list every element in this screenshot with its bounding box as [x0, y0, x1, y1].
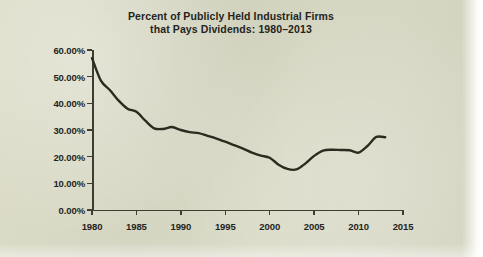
x-axis-tick [358, 210, 359, 215]
x-axis-tick [91, 210, 92, 215]
chart-title-line-2: that Pays Dividends: 1980–2013 [0, 23, 462, 36]
y-axis-tick-label: 60.00% [53, 45, 85, 56]
page-right-margin [462, 0, 483, 257]
y-axis-tick-label: 40.00% [53, 98, 85, 109]
x-axis-tick-label: 1980 [82, 221, 103, 232]
y-axis-tick-label: 20.00% [53, 151, 85, 162]
y-axis-tick-label: 10.00% [53, 178, 85, 189]
x-axis-tick [269, 210, 270, 215]
y-axis-tick [87, 156, 92, 157]
x-axis-tick [402, 210, 403, 215]
y-axis-tick-label: 50.00% [53, 71, 85, 82]
x-axis-tick-label: 1995 [215, 221, 236, 232]
x-axis-tick-label: 2005 [304, 221, 325, 232]
y-axis-tick [87, 183, 92, 184]
dividend-percent-line [92, 58, 385, 170]
chart-screenshot: Percent of Publicly Held Industrial Firm… [0, 0, 483, 257]
y-axis-tick [87, 76, 92, 77]
y-axis-tick-label: 0.00% [59, 205, 85, 216]
x-axis-tick [313, 210, 314, 215]
x-axis-tick [136, 210, 137, 215]
x-axis-tick-label: 2010 [348, 221, 369, 232]
x-axis-tick [180, 210, 181, 215]
y-axis-tick [87, 103, 92, 104]
line-series-svg [92, 50, 403, 210]
y-axis-tick-label: 30.00% [53, 125, 85, 136]
plot-area: 0.00%10.00%20.00%30.00%40.00%50.00%60.00… [92, 50, 403, 210]
chart-title-line-1: Percent of Publicly Held Industrial Firm… [0, 10, 462, 23]
x-axis-tick [225, 210, 226, 215]
x-axis-tick-label: 1990 [170, 221, 191, 232]
y-axis-tick [87, 129, 92, 130]
chart-title: Percent of Publicly Held Industrial Firm… [0, 10, 462, 36]
x-axis-tick-label: 1985 [126, 221, 147, 232]
y-axis-tick [87, 49, 92, 50]
x-axis-tick-label: 2000 [259, 221, 280, 232]
x-axis-tick-label: 2015 [393, 221, 414, 232]
